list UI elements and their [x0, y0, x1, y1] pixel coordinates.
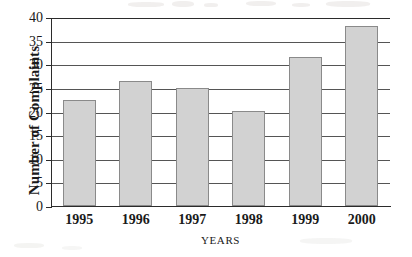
bar-1999 [289, 57, 322, 206]
y-tick-label: 20 [29, 106, 43, 120]
y-tick-label: 25 [29, 82, 43, 96]
y-tick-label: 0 [36, 200, 43, 214]
y-tick-label: 10 [29, 153, 43, 167]
bar-chart: Number of Complaints 0510152025303540 19… [0, 0, 412, 257]
scan-artifact [292, 3, 310, 7]
y-tick-label: 40 [29, 11, 43, 25]
bar-1998 [232, 111, 265, 206]
scan-artifact [326, 1, 370, 7]
y-tick-label: 15 [29, 129, 43, 143]
y-tick-label: 35 [29, 35, 43, 49]
scan-artifact [14, 243, 44, 248]
gridline [51, 89, 390, 90]
x-axis-line [51, 206, 391, 207]
scan-artifact [246, 1, 276, 6]
bar-1996 [119, 81, 152, 206]
bar-2000 [345, 26, 378, 206]
gridline [51, 113, 390, 114]
gridline [51, 18, 390, 19]
x-tick-label-1998: 1998 [235, 212, 263, 228]
x-tick-label-2000: 2000 [348, 212, 376, 228]
x-tick-label-1997: 1997 [178, 212, 206, 228]
x-tick-label-1996: 1996 [122, 212, 150, 228]
y-tick-label: 30 [29, 58, 43, 72]
gridline [51, 183, 390, 184]
gridline [51, 136, 390, 137]
scan-artifact [128, 2, 164, 7]
y-axis-title: Number of Complaints [26, 21, 43, 221]
gridline [51, 160, 390, 161]
bar-1995 [63, 100, 96, 206]
gridline [51, 65, 390, 66]
x-axis-title: YEARS [51, 234, 390, 246]
x-tick-label-1995: 1995 [65, 212, 93, 228]
y-axis-line [51, 18, 52, 208]
gridline [51, 42, 390, 43]
bar-1997 [176, 88, 209, 206]
y-tick-label: 5 [36, 176, 43, 190]
x-tick-label-1999: 1999 [291, 212, 319, 228]
scan-artifact [62, 246, 82, 250]
scan-artifact [204, 3, 218, 7]
plot-area: 0510152025303540 [51, 18, 390, 207]
scan-artifact [172, 1, 194, 7]
